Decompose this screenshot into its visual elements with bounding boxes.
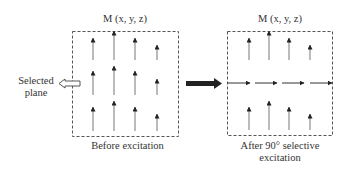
left-panel-caption: Before excitation	[80, 140, 175, 151]
transition-arrow-icon	[186, 78, 222, 89]
selected-plane-label-line2: plane	[14, 87, 58, 98]
left-magnetization-arrows	[93, 31, 157, 131]
right-magnetization-arrows-top	[249, 31, 310, 60]
selected-plane-label-line1: Selected	[14, 75, 58, 86]
right-panel-caption-line1: After 90° selective	[230, 140, 330, 151]
left-box	[73, 32, 179, 137]
right-panel-caption-line2: excitation	[230, 152, 330, 163]
left-panel-title: M (x, y, z)	[95, 13, 155, 24]
right-magnetization-arrows-bottom	[249, 101, 310, 130]
right-panel-title: M (x, y, z)	[250, 13, 310, 24]
selected-plane-hollow-arrow-icon	[59, 79, 80, 88]
